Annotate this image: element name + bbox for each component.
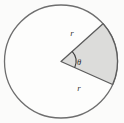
radius-lower-label: r — [77, 83, 81, 93]
circle-sector-diagram: r r θ — [0, 0, 124, 123]
radius-upper-label: r — [70, 28, 74, 38]
angle-theta-label: θ — [77, 57, 81, 67]
geometry-figure: r r θ — [0, 0, 124, 123]
